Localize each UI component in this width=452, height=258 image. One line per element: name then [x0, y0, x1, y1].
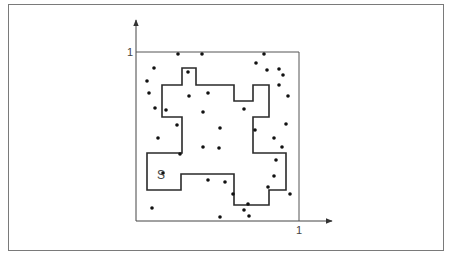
sample-point [201, 110, 205, 114]
sample-point [176, 52, 180, 56]
sample-point [280, 145, 284, 149]
sample-point [150, 206, 154, 210]
sample-point [217, 146, 221, 150]
random-points [145, 52, 292, 219]
sample-point [218, 215, 222, 219]
x-tick-label: 1 [296, 224, 302, 236]
sample-point [266, 185, 270, 189]
sample-point [206, 91, 210, 95]
sample-point [286, 94, 290, 98]
monte-carlo-diagram: 1 1 S [0, 0, 452, 258]
sample-point [242, 208, 246, 212]
sample-point [277, 83, 281, 87]
sample-point [218, 126, 222, 130]
sample-point [206, 178, 210, 182]
sample-point [147, 91, 151, 95]
sample-point [223, 180, 227, 184]
sample-point [175, 123, 179, 127]
sample-point [145, 79, 149, 83]
sample-point [262, 52, 266, 56]
sample-point [153, 106, 157, 110]
sample-point [178, 152, 182, 156]
sample-point [186, 70, 190, 74]
sample-point [277, 67, 281, 71]
sample-point [274, 158, 278, 162]
sample-point [288, 192, 292, 196]
y-tick-label: 1 [127, 46, 133, 58]
region-s-outline [147, 68, 286, 205]
sample-point [246, 202, 250, 206]
sample-point [265, 68, 269, 72]
sample-point [272, 136, 276, 140]
region-label: S [157, 168, 165, 182]
sample-point [152, 66, 156, 70]
sample-point [247, 214, 251, 218]
sample-point [201, 145, 205, 149]
sample-point [231, 192, 235, 196]
sample-point [164, 108, 168, 112]
sample-point [272, 174, 276, 178]
sample-point [254, 61, 258, 65]
sample-point [156, 136, 160, 140]
sample-point [242, 107, 246, 111]
sample-point [200, 52, 204, 56]
sample-point [284, 122, 288, 126]
sample-point [253, 128, 257, 132]
sample-point [187, 94, 191, 98]
sample-point [281, 73, 285, 77]
